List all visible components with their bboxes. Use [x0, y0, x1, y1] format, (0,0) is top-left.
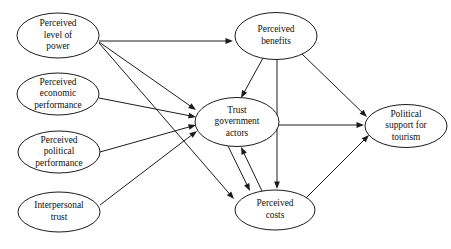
edge-power-to-benefits [99, 38, 233, 44]
edge-benefits-to-support-line [302, 54, 362, 113]
edge-economic-to-trust-line [99, 98, 190, 116]
node-perceived-political-performance-label-line: political [44, 146, 75, 156]
node-political-support-for-tourism-label-line: support for [385, 120, 427, 130]
node-perceived-level-of-power-label-line: Perceived [40, 18, 77, 28]
node-perceived-political-performance-label-line: performance [35, 158, 82, 168]
edge-political-to-trust-line [100, 127, 190, 152]
edge-economic-to-trust-arrowhead [188, 113, 196, 119]
node-perceived-level-of-power-label-line: level of [44, 30, 73, 40]
node-perceived-level-of-power[interactable]: Perceivedlevel ofpower [17, 13, 99, 58]
edge-trust-to-support [279, 122, 364, 128]
node-perceived-economic-performance-label-line: economic [40, 88, 76, 98]
edge-power-to-benefits-arrowhead [226, 38, 234, 44]
edge-costs-to-trust [241, 147, 262, 191]
edge-benefits-to-costs-arrowhead [274, 182, 280, 190]
node-trust-government-actors-label-line: Trust [227, 105, 247, 115]
node-political-support-for-tourism[interactable]: Politicalsupport fortourism [365, 105, 447, 148]
edge-interpersonal-to-trust-arrowhead [189, 131, 197, 138]
node-perceived-economic-performance-label-line: performance [34, 100, 81, 110]
node-perceived-benefits-label-line: Perceived [258, 24, 295, 34]
edge-trust-to-costs [228, 146, 250, 191]
edge-trust-to-costs-arrowhead [244, 183, 250, 191]
edge-benefits-to-trust [241, 58, 263, 98]
path-diagram: Perceivedlevel ofpowerPerceivedeconomicp… [0, 0, 451, 249]
edge-economic-to-trust [99, 98, 196, 118]
node-perceived-political-performance[interactable]: Perceivedpoliticalperformance [18, 131, 100, 173]
edge-costs-to-support-line [305, 139, 365, 199]
node-perceived-costs-label-line: Perceived [257, 198, 294, 208]
nodes-layer: Perceivedlevel ofpowerPerceivedeconomicp… [17, 13, 447, 233]
node-trust-government-actors-label-line: actors [226, 128, 249, 138]
edge-costs-to-trust-arrowhead [241, 147, 247, 155]
node-trust-government-actors[interactable]: Trustgovernmentactors [195, 98, 279, 147]
node-perceived-political-performance-label-line: Perceived [41, 135, 78, 145]
node-perceived-economic-performance-label-line: Perceived [40, 77, 77, 87]
node-interpersonal-trust-label-line: Interpersonal [34, 200, 84, 210]
edge-costs-to-support [305, 135, 369, 199]
node-perceived-economic-performance[interactable]: Perceivedeconomicperformance [17, 73, 99, 115]
node-perceived-costs[interactable]: Perceivedcosts [235, 190, 315, 230]
node-perceived-benefits[interactable]: Perceivedbenefits [235, 13, 317, 60]
node-interpersonal-trust[interactable]: Interpersonaltrust [18, 192, 100, 232]
edge-interpersonal-to-trust-line [100, 135, 192, 205]
edge-trust-to-support-arrowhead [357, 122, 365, 128]
edge-benefits-to-trust-line [244, 58, 263, 92]
edge-interpersonal-to-trust [100, 131, 197, 205]
diagram-canvas: Perceivedlevel ofpowerPerceivedeconomicp… [0, 0, 451, 249]
node-political-support-for-tourism-label-line: tourism [392, 132, 421, 142]
node-trust-government-actors-label-line: government [215, 116, 260, 126]
node-interpersonal-trust-label-line: trust [51, 212, 68, 222]
node-perceived-level-of-power-label-line: power [46, 41, 70, 51]
edge-power-to-trust-arrowhead [188, 103, 196, 110]
edge-benefits-to-trust-arrowhead [241, 90, 247, 98]
node-perceived-benefits-label-line: benefits [261, 36, 291, 46]
edge-benefits-to-support [302, 54, 367, 117]
node-political-support-for-tourism-label-line: Political [390, 109, 422, 119]
node-perceived-costs-label-line: costs [266, 210, 285, 220]
